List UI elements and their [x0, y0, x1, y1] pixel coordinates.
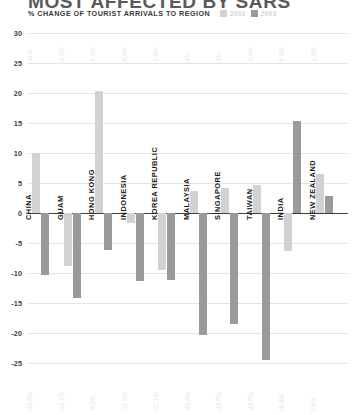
bar	[221, 188, 229, 213]
series-2002-value-label: -1.5%	[310, 47, 317, 64]
series-2003-value-label: 15.4%	[278, 394, 285, 412]
series-2003-value-label: -24.5%	[247, 392, 254, 412]
y-axis-tick-label: 20	[0, 89, 22, 98]
category-label: KOREA REPUBLIC	[150, 147, 159, 220]
bar	[158, 213, 166, 270]
category-label: NEW ZEALAND	[308, 160, 317, 220]
y-axis-tick-label: 5	[0, 179, 22, 188]
series-2003-value-label: -10.4%	[26, 392, 33, 412]
legend-item: 2003	[251, 10, 277, 17]
bar	[325, 196, 333, 213]
series-2003-value-label: 2.8%	[310, 397, 317, 412]
series-2002-value-label: -11%	[26, 49, 33, 64]
y-axis-tick-label: 10	[0, 149, 22, 158]
series-2002-value-label: -4%	[184, 53, 191, 64]
series-2003-value-label: -20.4%	[184, 392, 191, 412]
bar	[230, 213, 238, 324]
chart-subtitle: % CHANGE OF TOURIST ARRIVALS TO REGION	[28, 9, 210, 18]
category-label: INDONESIA	[119, 174, 128, 220]
series-2002-value-label: -6.9%	[278, 47, 285, 64]
bar	[284, 213, 292, 251]
series-2002-value-label: -2.8%	[152, 47, 159, 64]
bar	[104, 213, 112, 250]
y-axis-tick-label: -20	[0, 329, 22, 338]
category-label: MALAYSIA	[182, 178, 191, 220]
category-label: TAIWAN	[245, 188, 254, 220]
series-2003-value-label: -18.5%	[215, 392, 222, 412]
series-2003-value-label: -14.1%	[58, 392, 65, 412]
series-2003-value-label: -11.3%	[121, 392, 128, 412]
y-axis-tick-label: -15	[0, 299, 22, 308]
bar	[32, 153, 40, 213]
y-axis-labels: 302520151050-5-10-15-20-25	[0, 33, 24, 363]
plot-area: CHINA-11%-10.4%GUAM-4.1%-14.1%HONG KONG-…	[28, 33, 348, 363]
bar	[293, 121, 301, 213]
bar	[167, 213, 175, 280]
category-label: CHINA	[24, 194, 33, 220]
legend-item: 2002	[220, 10, 246, 17]
legend-label: 2003	[260, 10, 276, 17]
y-axis-tick-label: 25	[0, 59, 22, 68]
gridline	[28, 363, 348, 364]
legend-swatch-icon	[220, 10, 227, 17]
series-2002-value-label: -4%	[215, 53, 222, 64]
series-2002-value-label: -0.4%	[247, 47, 254, 64]
bar-groups: CHINA-11%-10.4%GUAM-4.1%-14.1%HONG KONG-…	[28, 33, 348, 363]
bar	[262, 213, 270, 360]
series-2003-value-label: -6.2%	[89, 395, 96, 412]
bar	[64, 213, 72, 266]
subtitle-row: % CHANGE OF TOURIST ARRIVALS TO REGION 2…	[28, 9, 277, 18]
bar	[95, 91, 103, 213]
bar	[136, 213, 144, 281]
category-label: HONG KONG	[87, 169, 96, 220]
chart-page: MOST AFFECTED BY SARS % CHANGE OF TOURIS…	[0, 0, 359, 415]
legend-swatch-icon	[251, 10, 258, 17]
y-axis-tick-label: 30	[0, 29, 22, 38]
bar	[41, 213, 49, 275]
bar	[73, 213, 81, 298]
series-2002-value-label: -2.1%	[89, 47, 96, 64]
bar	[199, 213, 207, 335]
series-2003-value-label: -11.1%	[152, 392, 159, 412]
category-label: SINGAPORE	[213, 171, 222, 220]
chart-legend: 20022003	[220, 10, 277, 17]
series-2002-value-label: -0.4%	[121, 47, 128, 64]
category-label: INDIA	[276, 197, 285, 220]
legend-label: 2002	[230, 10, 246, 17]
y-axis-tick-label: -10	[0, 269, 22, 278]
y-axis-tick-label: -25	[0, 359, 22, 368]
series-2002-value-label: -4.1%	[58, 47, 65, 64]
y-axis-tick-label: -5	[0, 239, 22, 248]
category-label: GUAM	[56, 195, 65, 220]
y-axis-tick-label: 15	[0, 119, 22, 128]
y-axis-tick-label: 0	[0, 209, 22, 218]
